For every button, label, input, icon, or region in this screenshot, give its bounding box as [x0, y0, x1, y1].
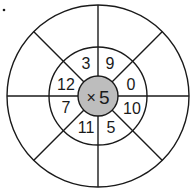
inner-number: 12: [57, 76, 75, 93]
inner-number: 10: [123, 100, 141, 117]
inner-number: 9: [106, 55, 115, 72]
inner-number: 3: [82, 55, 91, 72]
inner-number: 11: [78, 119, 95, 136]
stray-dot: [3, 9, 6, 12]
multiplication-wheel: ×5 3 9 0 10 5 11 7 12: [0, 0, 191, 191]
center-label: ×5: [87, 87, 110, 108]
inner-number: 7: [62, 99, 71, 116]
inner-number: 0: [127, 76, 136, 93]
inner-number: 5: [107, 119, 116, 136]
